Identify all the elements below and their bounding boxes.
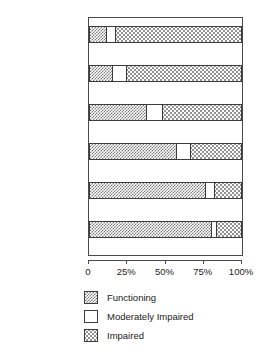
legend-item-functioning: Functioning [84,288,264,306]
bar-row [89,65,242,82]
legend-swatch-impaired-icon [84,329,98,342]
legend-swatch-moderately-impaired-icon [84,310,98,323]
bar-segment-functioning [89,221,211,238]
bar-row [89,104,242,121]
legend-label-impaired: Impaired [107,330,144,341]
x-axis-tick [241,260,242,264]
legend-label-moderately-impaired: Moderately Impaired [107,311,194,322]
x-axis-tick-label: 25% [117,266,136,277]
x-axis-tick-label: 75% [193,266,212,277]
x-axis-tick [88,260,89,264]
stacked-bar-chart-figure: Agriculture Urban/Industrial Rural Comme… [0,0,268,356]
bar-segment-moderately-impaired [106,26,115,43]
x-axis-tick [165,260,166,264]
legend-swatch-functioning-icon [84,291,98,304]
bar-segment-impaired [126,65,242,82]
bar-segment-moderately-impaired [112,65,126,82]
bar-segment-functioning [89,182,205,199]
x-axis-tick-label: 50% [155,266,174,277]
bar-segment-impaired [214,182,242,199]
x-axis-tick-label: 0 [85,266,90,277]
bar-row [89,143,242,160]
bar-segment-functioning [89,26,106,43]
bar-segment-moderately-impaired [176,143,190,160]
legend-label-functioning: Functioning [107,292,156,303]
bar-segment-impaired [162,104,242,121]
bar-segment-impaired [190,143,242,160]
legend-item-impaired: Impaired [84,326,264,344]
bar-segment-moderately-impaired [146,104,163,121]
bar-segment-moderately-impaired [205,182,214,199]
bar-segment-impaired [115,26,242,43]
bar-segment-functioning [89,65,112,82]
x-axis-tick-label: 100% [229,266,253,277]
x-axis-tick [203,260,204,264]
chart-legend: Functioning Moderately Impaired Impaired [84,288,264,345]
x-axis-tick [126,260,127,264]
legend-item-moderately-impaired: Moderately Impaired [84,307,264,325]
bar-segment-functioning [89,143,176,160]
bar-row [89,182,242,199]
bar-row [89,26,242,43]
bar-row [89,221,242,238]
bar-segment-impaired [216,221,242,238]
plot-area [88,17,243,256]
bar-segment-functioning [89,104,146,121]
